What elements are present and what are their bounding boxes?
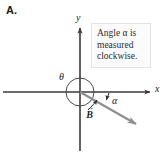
vector-b-letter: B bbox=[86, 110, 93, 120]
x-axis-label: x bbox=[155, 84, 159, 94]
angle-alpha-label: α bbox=[112, 96, 117, 106]
alpha-leader-arrow bbox=[107, 93, 110, 100]
vector-b-label: → B bbox=[86, 106, 93, 120]
angle-theta-label: θ bbox=[59, 72, 64, 82]
y-axis-label: y bbox=[76, 13, 80, 23]
figure-panel: A. y x θ α → B A bbox=[0, 0, 164, 153]
callout-box: Angle α is measured clockwise. bbox=[91, 23, 151, 68]
